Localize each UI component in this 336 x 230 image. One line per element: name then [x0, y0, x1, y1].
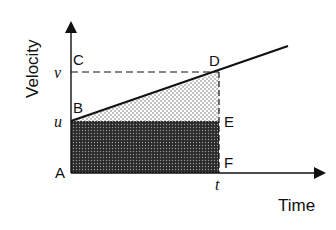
point-label-e: E [224, 113, 234, 130]
y-axis-arrow-icon [65, 21, 77, 33]
point-label-a: A [55, 164, 65, 181]
u-label: u [54, 113, 62, 130]
point-label-d: D [209, 52, 220, 69]
point-label-b: B [73, 99, 83, 116]
rectangle-region-abef [71, 121, 219, 173]
y-axis-label: Velocity [23, 39, 42, 98]
x-axis-arrow-icon [314, 167, 326, 179]
velocity-time-diagram: Velocity Time v u t C B A D E F [0, 0, 336, 230]
t-label: t [215, 176, 220, 193]
x-axis-label: Time [278, 196, 315, 215]
point-label-f: F [224, 154, 233, 171]
v-label: v [54, 64, 62, 81]
point-label-c: C [73, 51, 84, 68]
